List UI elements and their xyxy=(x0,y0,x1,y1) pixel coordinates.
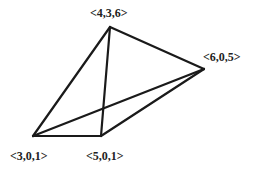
tetrahedron-diagram: <4,3,6> <6,0,5> <3,0,1> <5,0,1> xyxy=(0,0,267,170)
edges xyxy=(33,27,204,136)
vertex-label-b: <6,0,5> xyxy=(203,50,241,64)
vertex-label-a: <4,3,6> xyxy=(90,6,128,20)
vertex-label-d: <5,0,1> xyxy=(86,149,124,163)
edge-ac xyxy=(33,27,110,136)
vertex-labels: <4,3,6> <6,0,5> <3,0,1> <5,0,1> xyxy=(10,6,241,163)
edge-ab xyxy=(110,27,204,69)
edge-bc xyxy=(33,69,204,136)
edge-ad xyxy=(101,27,110,136)
vertex-label-c: <3,0,1> xyxy=(10,149,48,163)
